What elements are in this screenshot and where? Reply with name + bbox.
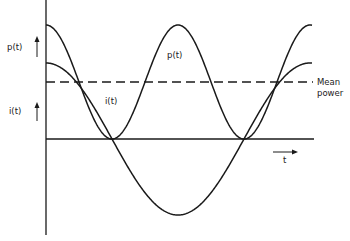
time-label: t (283, 155, 287, 165)
p-axis-label: p(t) (7, 42, 22, 52)
i-curve-label: i(t) (105, 96, 117, 106)
up-arrow-icon (35, 36, 40, 57)
mean-power-label-2: power (317, 88, 344, 98)
p-curve-label: p(t) (167, 50, 182, 60)
mean-power-label-1: Mean (317, 77, 340, 87)
up-arrow-icon (35, 102, 40, 121)
i-axis-label: i(t) (9, 106, 21, 116)
power-diagram: p(t) i(t) p(t) i(t) Mean power t (0, 0, 350, 241)
right-arrow-icon (273, 150, 298, 155)
